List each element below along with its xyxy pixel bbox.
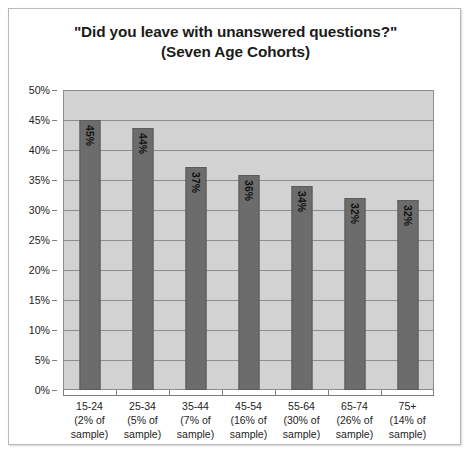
category-name: 15-24 <box>63 400 116 414</box>
chart-frame: "Did you leave with unanswered questions… <box>8 8 461 445</box>
y-axis-tick-label: 35% <box>29 174 50 186</box>
category-sublabel: (5% of <box>116 414 169 428</box>
gridline <box>64 360 433 361</box>
y-axis-tick-label: 45% <box>29 114 50 126</box>
y-axis-tick-mark <box>52 300 57 301</box>
category-sublabel: sample) <box>275 428 328 442</box>
gridline <box>64 300 433 301</box>
x-axis-category-label: 65-74(26% ofsample) <box>328 400 381 442</box>
category-sublabel: sample) <box>222 428 275 442</box>
category-name: 55-64 <box>275 400 328 414</box>
plot-area <box>63 90 434 390</box>
y-axis: 50%45%40%35%30%25%20%15%10%5%0% <box>9 90 57 390</box>
gridline <box>64 180 433 181</box>
y-axis-tick-label: 15% <box>29 294 50 306</box>
chart-title-line-2: (Seven Age Cohorts) <box>9 42 461 62</box>
y-axis-tick-mark <box>52 240 57 241</box>
category-sublabel: sample) <box>381 428 434 442</box>
x-axis-category-label: 55-64(30% ofsample) <box>275 400 328 442</box>
category-sublabel: (7% of <box>169 414 222 428</box>
y-axis-tick-label: 50% <box>29 84 50 96</box>
gridline <box>64 150 433 151</box>
y-axis-tick-label: 5% <box>35 354 50 366</box>
y-axis-tick-mark <box>52 150 57 151</box>
category-sublabel: sample) <box>328 428 381 442</box>
y-axis-tick-label: 40% <box>29 144 50 156</box>
y-axis-tick-mark <box>52 330 57 331</box>
y-axis-tick-mark <box>52 90 57 91</box>
category-sublabel: sample) <box>116 428 169 442</box>
x-axis-category-label: 25-34(5% ofsample) <box>116 400 169 442</box>
x-axis-line <box>63 395 434 396</box>
category-sublabel: (2% of <box>63 414 116 428</box>
x-axis-category-label: 75+(14% ofsample) <box>381 400 434 442</box>
y-axis-tick-mark <box>52 390 57 391</box>
y-axis-tick-label: 30% <box>29 204 50 216</box>
chart-title: "Did you leave with unanswered questions… <box>9 22 461 62</box>
y-axis-tick-label: 10% <box>29 324 50 336</box>
gridline <box>64 120 433 121</box>
category-name: 35-44 <box>169 400 222 414</box>
gridline <box>64 210 433 211</box>
category-name: 25-34 <box>116 400 169 414</box>
category-sublabel: sample) <box>63 428 116 442</box>
y-axis-tick-mark <box>52 120 57 121</box>
category-name: 45-54 <box>222 400 275 414</box>
y-axis-tick-label: 25% <box>29 234 50 246</box>
x-axis-category-label: 15-24(2% ofsample) <box>63 400 116 442</box>
category-sublabel: (14% of <box>381 414 434 428</box>
x-axis-labels: 15-24(2% ofsample)25-34(5% ofsample)35-4… <box>63 400 434 445</box>
y-axis-tick-mark <box>52 270 57 271</box>
y-axis-tick-label: 20% <box>29 264 50 276</box>
category-sublabel: sample) <box>169 428 222 442</box>
x-axis-category-label: 35-44(7% ofsample) <box>169 400 222 442</box>
y-axis-tick-mark <box>52 180 57 181</box>
category-sublabel: (30% of <box>275 414 328 428</box>
chart-title-line-1: "Did you leave with unanswered questions… <box>74 23 397 40</box>
y-axis-tick-mark <box>52 360 57 361</box>
gridline <box>64 270 433 271</box>
category-sublabel: (16% of <box>222 414 275 428</box>
category-sublabel: (26% of <box>328 414 381 428</box>
gridline <box>64 330 433 331</box>
x-axis-category-label: 45-54(16% ofsample) <box>222 400 275 442</box>
category-name: 65-74 <box>328 400 381 414</box>
category-name: 75+ <box>381 400 434 414</box>
y-axis-tick-mark <box>52 210 57 211</box>
y-axis-tick-label: 0% <box>35 384 50 396</box>
gridline <box>64 240 433 241</box>
